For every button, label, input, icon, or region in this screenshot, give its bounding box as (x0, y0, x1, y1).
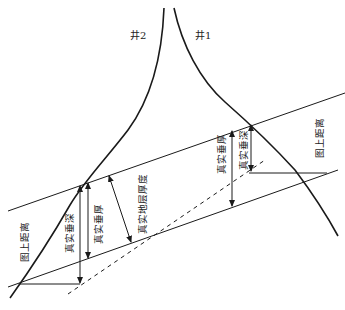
diagram-canvas: 井2 井1 图上距离 真实垂深 真实垂厚 真实地层厚度 真实垂厚 真实垂深 图上… (0, 0, 345, 310)
well-2-trajectory (10, 8, 164, 298)
true-vertical-depth-left-label: 真实垂深 (64, 213, 75, 253)
map-distance-left-label: 图上距离 (19, 222, 30, 262)
true-stratigraphic-thickness-arrow (109, 176, 131, 242)
true-vertical-depth-right-label: 真实垂深 (238, 130, 249, 170)
formation-bottom-line (8, 170, 338, 287)
true-vertical-thickness-right-label: 真实垂厚 (216, 134, 227, 174)
true-vertical-thickness-left-label: 真实垂厚 (93, 204, 104, 244)
map-distance-right-label: 图上距离 (314, 118, 325, 158)
well-1-label: 井1 (195, 29, 211, 41)
true-stratigraphic-thickness-label: 真实地层厚度 (137, 174, 148, 234)
formation-top-line (8, 93, 345, 211)
well-2-label: 井2 (130, 29, 146, 41)
